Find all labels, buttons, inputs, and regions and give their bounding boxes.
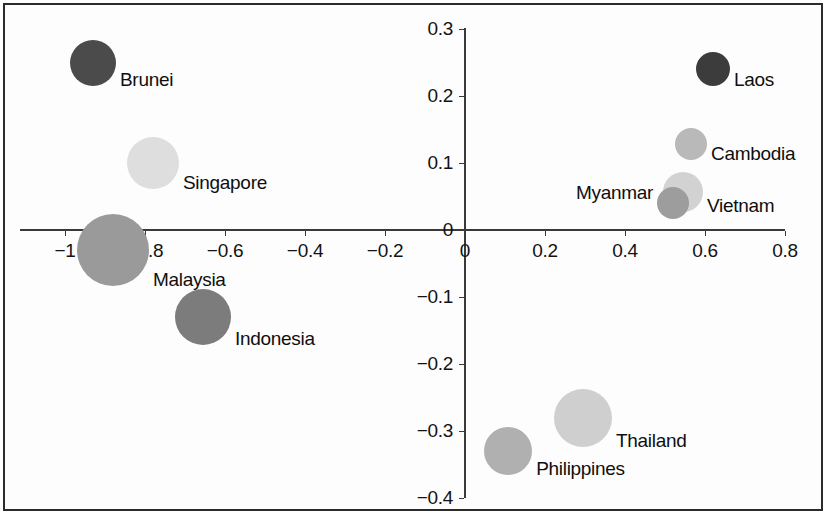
bubble-brunei[interactable]	[70, 40, 116, 86]
bubble-philippines[interactable]	[484, 427, 532, 475]
y-tick-mark	[459, 230, 464, 231]
y-tick-mark	[459, 297, 464, 298]
y-tick-label: 0.1	[0, 152, 453, 174]
y-tick-mark	[459, 431, 464, 432]
bubble-chart-figure: −1−0.8−0.6−0.4−0.200.20.40.60.8 0.30.20.…	[0, 0, 835, 528]
bubble-cambodia[interactable]	[675, 128, 707, 160]
label-singapore: Singapore	[183, 172, 267, 194]
label-malaysia: Malaysia	[153, 269, 226, 291]
y-tick-label: 0.2	[0, 85, 453, 107]
x-tick-mark	[785, 231, 786, 236]
label-myanmar: Myanmar	[576, 182, 653, 204]
x-tick-label: 0.6	[692, 240, 718, 262]
y-tick-mark	[459, 364, 464, 365]
y-tick-mark	[459, 29, 464, 30]
y-tick-mark	[459, 163, 464, 164]
x-tick-mark	[625, 231, 626, 236]
y-tick-label: −0.3	[0, 420, 453, 442]
y-tick-mark	[459, 498, 464, 499]
bubble-thailand[interactable]	[554, 389, 612, 447]
x-tick-label: 0	[460, 240, 470, 262]
x-tick-label: 0.4	[612, 240, 638, 262]
label-vietnam: Vietnam	[707, 195, 774, 217]
label-cambodia: Cambodia	[711, 143, 795, 165]
y-tick-mark	[459, 96, 464, 97]
y-tick-label: −0.4	[0, 487, 453, 509]
x-tick-label: −0.6	[207, 240, 243, 262]
x-tick-label: −0.2	[367, 240, 403, 262]
label-laos: Laos	[734, 69, 774, 91]
y-tick-label: 0.3	[0, 18, 453, 40]
bubble-myanmar[interactable]	[657, 187, 689, 219]
label-philippines: Philippines	[536, 458, 625, 480]
x-tick-label: 0.8	[772, 240, 798, 262]
x-tick-mark	[465, 231, 466, 236]
bubble-laos[interactable]	[696, 52, 730, 86]
x-tick-label: −1	[54, 240, 75, 262]
x-tick-mark	[705, 231, 706, 236]
y-tick-label: −0.2	[0, 353, 453, 375]
y-axis-line	[464, 28, 466, 498]
bubble-indonesia[interactable]	[175, 289, 231, 345]
bubble-malaysia[interactable]	[77, 214, 149, 286]
label-thailand: Thailand	[616, 430, 686, 452]
x-tick-mark	[545, 231, 546, 236]
bubble-singapore[interactable]	[127, 137, 179, 189]
label-indonesia: Indonesia	[235, 328, 315, 350]
x-tick-label: −0.4	[287, 240, 323, 262]
y-tick-label: 0	[0, 219, 453, 241]
plot-area: −1−0.8−0.6−0.4−0.200.20.40.60.8 0.30.20.…	[0, 0, 835, 528]
x-tick-label: 0.2	[532, 240, 558, 262]
label-brunei: Brunei	[120, 69, 173, 91]
